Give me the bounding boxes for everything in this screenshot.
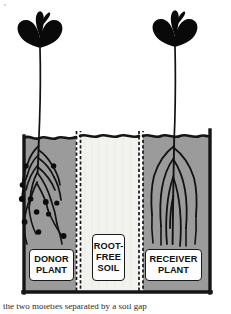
receiver-seedling-icon — [153, 10, 198, 47]
donor-soil-surface-line — [24, 137, 76, 139]
receiver-soil-surface-line — [143, 135, 210, 137]
divider-right-mesh — [139, 131, 143, 292]
label-receiver-plant: RECEIVER PLANT — [145, 249, 202, 281]
label-receiver-line1: RECEIVER — [150, 254, 198, 265]
donor-stem — [39, 48, 41, 141]
label-receiver-line2: PLANT — [158, 265, 189, 276]
figure-container: DONOR PLANT ROOT- FREE SOIL RECEIVER PLA… — [0, 0, 231, 314]
label-rootfree-line3: SOIL — [98, 263, 120, 274]
receiver-stem — [174, 47, 175, 138]
root-free-soil-surface-line — [80, 135, 139, 137]
label-donor-line1: DONOR — [34, 254, 69, 265]
root-nodule-icon — [20, 182, 25, 187]
label-rootfree-line2: FREE — [96, 252, 121, 263]
label-donor-line2: PLANT — [36, 265, 67, 276]
divider-left-mesh — [77, 131, 81, 292]
root-nodule-icon — [24, 164, 29, 169]
caption-text: the two moieties separated by a soil gap — [3, 304, 147, 311]
root-nodule-icon — [28, 196, 34, 202]
donor-seedling-icon — [18, 11, 63, 48]
cropped-caption-strip: the two moieties separated by a soil gap — [0, 304, 231, 314]
root-nodule-icon — [19, 196, 25, 202]
label-root-free-soil: ROOT- FREE SOIL — [92, 234, 125, 281]
root-nodule-icon — [43, 199, 49, 205]
root-nodule-icon — [34, 209, 40, 215]
root-nodule-icon — [51, 163, 56, 168]
label-donor-plant: DONOR PLANT — [29, 249, 74, 281]
root-nodule-icon — [54, 200, 59, 205]
label-rootfree-line1: ROOT- — [94, 241, 124, 252]
